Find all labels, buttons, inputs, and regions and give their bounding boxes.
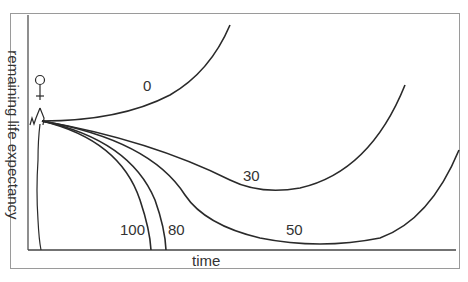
curve-label-0: 0 <box>143 78 151 93</box>
curve-label-80: 80 <box>168 222 185 237</box>
curve-label-50: 50 <box>286 222 303 237</box>
y-axis-label: remaining life expectancy <box>3 40 23 230</box>
curve-0 <box>42 25 230 121</box>
stick-figure-icon <box>30 76 45 251</box>
x-axis-label: time <box>192 253 220 268</box>
diagram-canvas <box>0 0 468 282</box>
curve-label-30: 30 <box>243 168 260 183</box>
curve-label-100: 100 <box>120 222 145 237</box>
y-axis-label-text: remaining life expectancy <box>5 50 22 219</box>
curve-80 <box>42 121 166 250</box>
curve-30 <box>42 85 405 190</box>
